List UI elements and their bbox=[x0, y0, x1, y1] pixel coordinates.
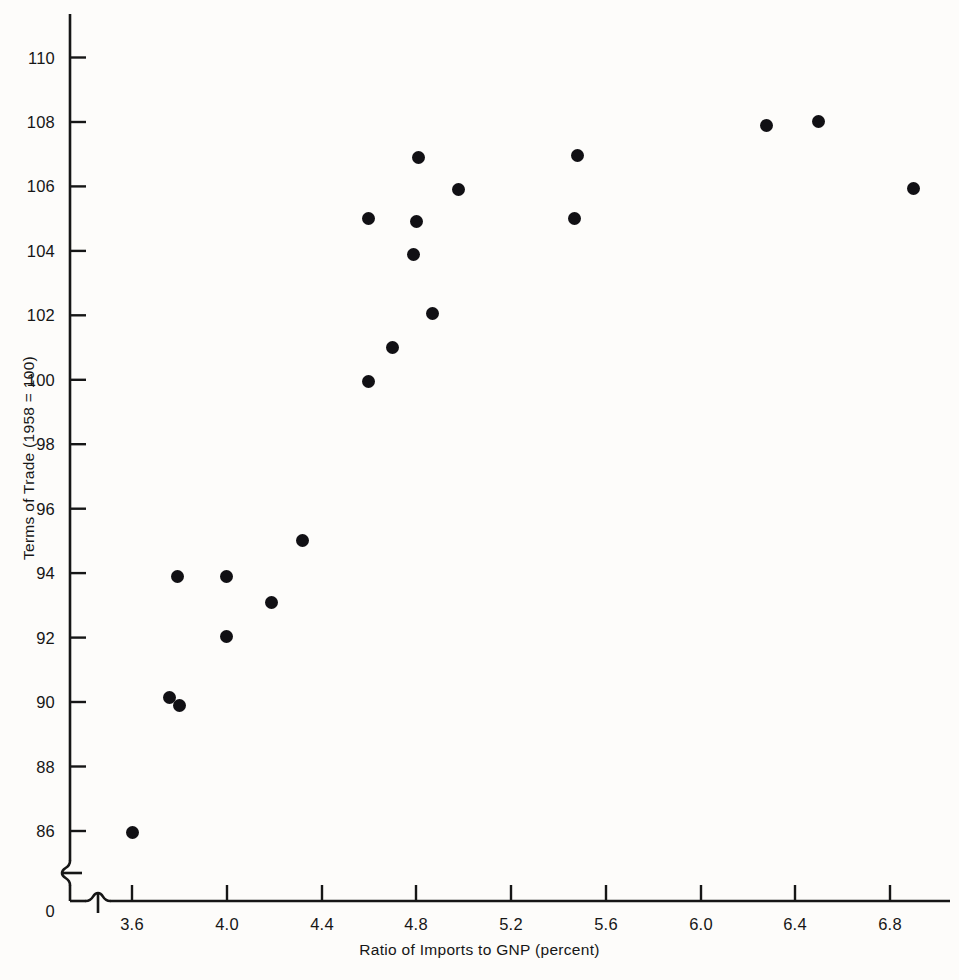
figure-container: 110 108 106 104 102 100 98 96 94 92 90 8… bbox=[0, 0, 959, 980]
x-tick-label: 6.4 bbox=[783, 915, 807, 934]
data-point bbox=[265, 596, 278, 609]
data-point bbox=[907, 182, 920, 195]
x-tick-label: 3.6 bbox=[120, 915, 144, 934]
data-point bbox=[171, 570, 184, 583]
x-tick-label: 4.8 bbox=[404, 915, 428, 934]
x-tick-label: 4.4 bbox=[310, 915, 334, 934]
data-point bbox=[407, 248, 420, 261]
x-tick-label: 5.2 bbox=[499, 915, 523, 934]
x-tick-label: 6.0 bbox=[689, 915, 713, 934]
y-axis-title: Terms of Trade (1958 = 100) bbox=[20, 258, 38, 658]
data-point bbox=[220, 630, 233, 643]
x-axis-ticks bbox=[132, 885, 890, 901]
data-point bbox=[173, 699, 186, 712]
scatter-plot: 110 108 106 104 102 100 98 96 94 92 90 8… bbox=[0, 0, 959, 980]
data-point bbox=[126, 826, 139, 839]
y-tick-label: 106 bbox=[0, 177, 55, 196]
y-tick-label: 86 bbox=[0, 822, 55, 841]
y-axis-ticks bbox=[70, 58, 86, 832]
axis-lines bbox=[0, 0, 959, 980]
y-tick-label: 108 bbox=[0, 113, 55, 132]
y-tick-label: 90 bbox=[0, 693, 55, 712]
x-tick-label: 4.0 bbox=[215, 915, 239, 934]
x-tick-label: 5.6 bbox=[594, 915, 618, 934]
y-tick-label: 110 bbox=[0, 48, 55, 67]
data-point bbox=[760, 119, 773, 132]
origin-zero-label: 0 bbox=[0, 902, 55, 921]
x-axis-title: Ratio of Imports to GNP (percent) bbox=[0, 941, 959, 959]
y-tick-label: 88 bbox=[0, 757, 55, 776]
x-tick-label: 6.8 bbox=[878, 915, 902, 934]
data-point bbox=[412, 151, 425, 164]
